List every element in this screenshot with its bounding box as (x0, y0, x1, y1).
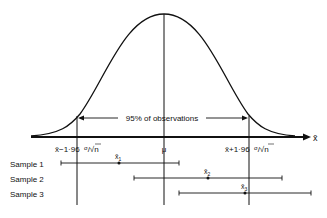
confidence-interval-diagram: x̄ 95% of observations x̄−1·96 σ/√n μ x̄… (0, 0, 327, 218)
x-axis-arrow-icon (303, 134, 311, 141)
sample-mean-label: x̄2 (204, 168, 211, 177)
mean-label: μ (162, 145, 167, 154)
arrow-right-icon (242, 116, 248, 121)
lower-limit-label: x̄−1·96 σ/√n (55, 145, 99, 154)
sample-label: Sample 3 (10, 190, 44, 199)
range-label: 95% of observations (126, 114, 199, 123)
upper-limit-label: x̄+1·96 σ/√n (225, 145, 269, 154)
sample-row-2: Sample 2 x̄2 (10, 168, 282, 184)
sample-mean-label: x̄1 (115, 153, 122, 162)
sample-row-3: Sample 3 x̄3 (10, 183, 311, 199)
sample-label: Sample 2 (10, 175, 44, 184)
sample-row-1: Sample 1 x̄1 (10, 153, 179, 169)
x-axis-label: x̄ (313, 133, 318, 143)
sample-label: Sample 1 (10, 160, 44, 169)
sample-mean-label: x̄3 (241, 183, 248, 192)
